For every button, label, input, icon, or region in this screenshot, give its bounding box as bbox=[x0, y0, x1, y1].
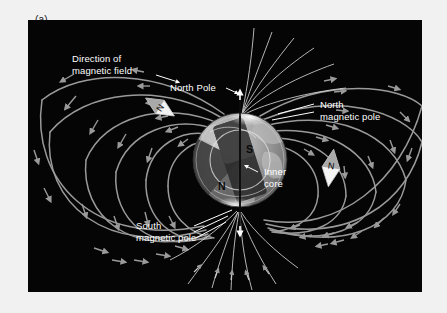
direction-of-field-line2: magnetic field bbox=[72, 65, 132, 76]
label-direction-of-magnetic-field: Direction ofmagnetic field bbox=[72, 53, 132, 76]
north-magnetic-pole-line1: North bbox=[320, 99, 344, 110]
label-inner-core: Innercore bbox=[264, 166, 286, 189]
compass-right-label: N bbox=[327, 161, 335, 172]
south-magnetic-pole-line1: South bbox=[136, 220, 161, 231]
inner-core-line2: core bbox=[264, 178, 283, 189]
label-north-magnetic-pole: Northmagnetic pole bbox=[320, 99, 380, 122]
south-magnetic-pole-line2: magnetic pole bbox=[136, 232, 196, 243]
label-south-magnetic-pole: Southmagnetic pole bbox=[136, 220, 196, 243]
figure-container: (a) bbox=[0, 0, 447, 313]
direction-of-field-line1: Direction of bbox=[72, 53, 121, 64]
magnet-north-mark: N bbox=[218, 180, 226, 192]
magnet-south-mark: S bbox=[246, 143, 253, 155]
label-north-pole: North Pole bbox=[170, 82, 216, 94]
inner-core-line1: Inner bbox=[264, 166, 286, 177]
north-magnetic-pole-line2: magnetic pole bbox=[320, 111, 380, 122]
photograph-panel: Direction ofmagnetic field North Pole No… bbox=[28, 20, 422, 292]
